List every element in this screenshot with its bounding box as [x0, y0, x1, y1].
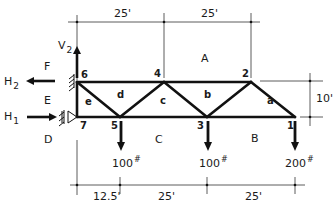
load-label-node-3: 100# — [199, 156, 228, 169]
dimension-bottom-2: 25' — [158, 191, 175, 202]
panel-label-a: a — [267, 96, 274, 106]
node-label-1: 1 — [287, 121, 294, 131]
pin-support-icon — [69, 74, 74, 91]
dimension-bottom-1: 12.5' — [93, 191, 121, 202]
space-label-e-upper: E — [44, 95, 51, 106]
panel-label-e: e — [85, 97, 92, 107]
dimension-bottom-3: 25' — [245, 191, 262, 202]
node-label-4: 4 — [154, 69, 161, 79]
load-arrow-node-5 — [117, 121, 125, 151]
dimension-height: 10' — [316, 93, 333, 104]
dimension-top-left: 25' — [114, 8, 131, 19]
reaction-label-h2: H2 — [4, 76, 19, 91]
space-label-f-upper: F — [44, 61, 50, 72]
panel-label-b: b — [204, 90, 211, 100]
bottom-dimension-line — [70, 140, 305, 195]
node-label-2: 2 — [242, 69, 249, 79]
node-label-3: 3 — [197, 121, 204, 131]
panel-label-d: d — [117, 90, 124, 100]
load-label-node-1: 200# — [285, 156, 314, 169]
truss-diagram: 25' 25' 10' 12.5' 25' 25' 6 4 2 7 5 3 1 … — [0, 0, 335, 214]
node-label-6: 6 — [81, 70, 88, 80]
reaction-v2-arrow — [73, 46, 81, 78]
reaction-h1-arrow — [27, 113, 57, 121]
panel-label-c: c — [160, 96, 166, 106]
reaction-label-v2: V2 — [58, 40, 72, 55]
truss-members — [77, 82, 295, 117]
truss-drawing — [0, 0, 335, 214]
reaction-label-h1: H1 — [4, 111, 19, 126]
roller-support-icon — [59, 110, 77, 126]
space-label-d-upper: D — [44, 134, 52, 145]
node-label-5: 5 — [111, 121, 118, 131]
load-arrow-node-3 — [204, 121, 212, 151]
space-label-c-upper: C — [155, 134, 163, 145]
node-label-7: 7 — [80, 121, 87, 131]
reaction-h2-arrow — [26, 77, 55, 85]
load-label-node-5: 100# — [112, 156, 141, 169]
space-label-b-upper: B — [251, 133, 259, 144]
space-label-a-upper: A — [201, 53, 209, 64]
dimension-top-right: 25' — [201, 8, 218, 19]
